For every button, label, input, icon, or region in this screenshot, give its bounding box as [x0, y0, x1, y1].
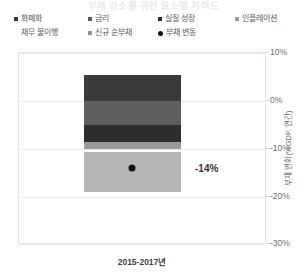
debt-change-value-label: -14% [195, 163, 218, 174]
legend-swatch-debt-change [158, 31, 163, 36]
legend-item-real-growth[interactable]: 실질 성장 [158, 15, 195, 23]
tick-label-0: 0% [270, 95, 282, 105]
gridline-minus-30 [19, 244, 265, 245]
legend-label-inflation: 인플레이션 [242, 15, 277, 23]
legend-label-interest-rate: 금리 [95, 15, 109, 23]
legend-label-monetization: 화폐화 [21, 15, 42, 23]
legend-swatch-monetization [14, 17, 18, 21]
bar-segment-monetization[interactable] [84, 75, 181, 101]
chart-legend: 화폐화 금리 실질 성장 인플레이션 채무 불이행 신규 순부채 부채 변동 [0, 13, 307, 41]
gridline-10 [19, 53, 265, 54]
legend-label-real-growth: 실질 성장 [165, 15, 195, 23]
legend-item-new-net-debt[interactable]: 신규 순부채 [88, 29, 132, 37]
chart-title: 부채 감소를 위한 요소별 기여도 [0, 0, 307, 12]
legend-item-monetization[interactable]: 화폐화 [14, 15, 42, 23]
bar-segment-inflation[interactable] [84, 142, 181, 150]
legend-label-debt-change: 부채 변동 [166, 29, 196, 37]
legend-label-default: 채무 불이행 [21, 29, 58, 37]
bar-segment-new-net-debt[interactable] [84, 152, 181, 192]
tick-label-10: 10% [270, 47, 287, 57]
legend-item-debt-change[interactable]: 부채 변동 [158, 29, 196, 37]
tick-label-minus-20: -20% [270, 191, 290, 201]
legend-item-interest-rate[interactable]: 금리 [88, 15, 109, 23]
legend-item-inflation[interactable]: 인플레이션 [235, 15, 277, 23]
legend-swatch-default [14, 31, 18, 35]
legend-label-new-net-debt: 신규 순부채 [95, 29, 132, 37]
legend-swatch-real-growth [158, 17, 162, 21]
legend-swatch-new-net-debt [88, 31, 92, 35]
tick-label-minus-30: -30% [270, 238, 290, 248]
bar-segment-interest-rate[interactable] [84, 101, 181, 125]
legend-swatch-inflation [235, 17, 239, 21]
debt-change-chart: 부채 감소를 위한 요소별 기여도 화폐화 금리 실질 성장 인플레이션 채무 … [0, 0, 307, 277]
x-axis-title: 2015-2017년 [18, 255, 266, 267]
legend-item-default[interactable]: 채무 불이행 [14, 29, 58, 37]
bar-segment-real-growth[interactable] [84, 125, 181, 142]
legend-swatch-interest-rate [88, 17, 92, 21]
plot-area: -14% [18, 52, 266, 244]
debt-change-marker[interactable] [129, 165, 136, 172]
y-axis-title: 부채 변화(%GDP, 연간) [282, 110, 293, 185]
gridline-minus-20 [19, 197, 265, 198]
